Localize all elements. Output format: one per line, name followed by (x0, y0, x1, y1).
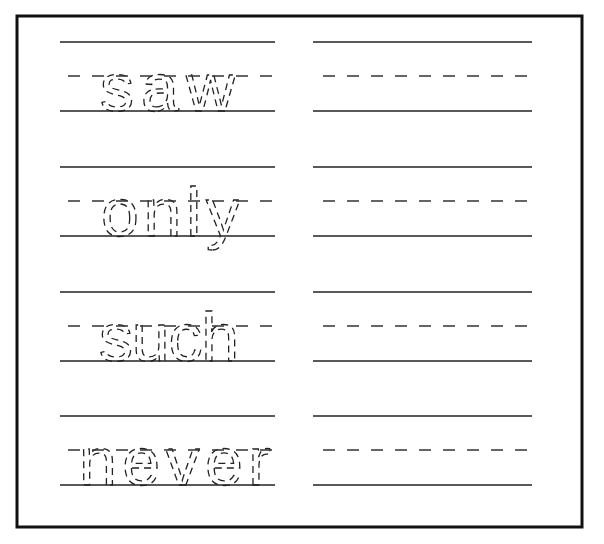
tracing-word: only (101, 174, 240, 250)
worksheet: sawonlysuchnever (0, 0, 604, 544)
word-row: only (101, 174, 240, 250)
tracing-word: never (79, 423, 271, 499)
word-row: such (99, 299, 239, 375)
tracing-word: such (99, 299, 239, 375)
word-row: saw (100, 49, 236, 125)
word-row: never (79, 423, 271, 499)
tracing-word: saw (100, 49, 236, 125)
